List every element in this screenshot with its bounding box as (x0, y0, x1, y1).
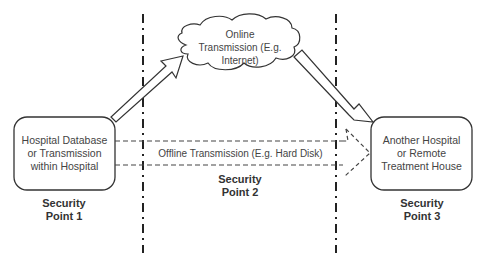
online-arrow-up (111, 56, 183, 122)
security-point-3: Security Point 3 (392, 197, 452, 223)
offline-arrowhead-outline (345, 129, 370, 176)
security-point-2: Security Point 2 (210, 173, 270, 199)
source-box-label: Hospital Database or Transmission within… (14, 134, 115, 173)
security-point-1: Security Point 1 (34, 197, 94, 223)
dest-box-label: Another Hospital or Remote Treatment Hou… (371, 134, 472, 173)
offline-transmission-label: Offline Transmission (E.g. Hard Disk) (148, 147, 333, 160)
online-arrow-down (294, 50, 373, 122)
cloud-label: Online Transmission (E.g. Internet) (190, 28, 290, 67)
